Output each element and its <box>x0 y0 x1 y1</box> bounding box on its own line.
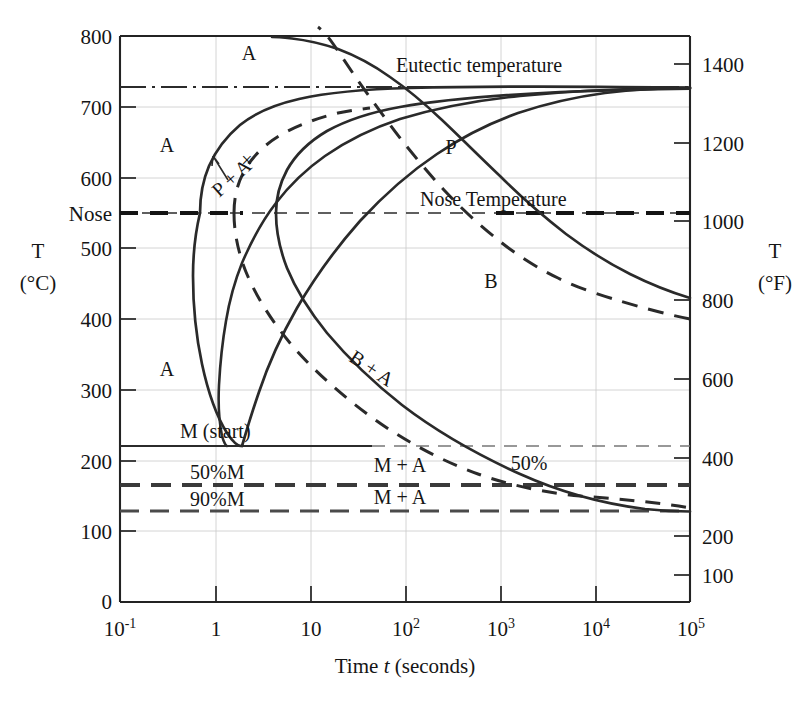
y-tick-label-left-0: 0 <box>102 590 113 614</box>
y-tick-label-left-500: 500 <box>81 237 113 261</box>
y-tick-label-left-400: 400 <box>81 308 113 332</box>
y-tick-label-left-600: 600 <box>81 167 113 191</box>
m-50-percent-label: 50%M <box>190 461 245 483</box>
region-label-austenite-lower-left: A <box>160 358 175 380</box>
region-label-austenite-upper-left: A <box>160 134 175 156</box>
y-tick-label-left-200: 200 <box>81 450 113 474</box>
y-axis-right-title-line1: T <box>769 239 782 263</box>
ttt-diagram-chart: 10-1 1 10 102 103 104 105 800 700 600 No… <box>0 0 809 710</box>
eutectic-temperature-label: Eutectic temperature <box>396 54 562 77</box>
y-tick-label-left-700: 700 <box>81 96 113 120</box>
region-label-pearlite: P <box>445 136 456 158</box>
nose-temperature-label: Nose Temperature <box>420 188 567 211</box>
y-tick-label-right-1400: 1400 <box>702 53 744 77</box>
y-tick-label-left-nose: Nose <box>69 202 112 226</box>
y-tick-label-left-800: 800 <box>81 25 113 49</box>
x-tick-label-2: 10 <box>301 617 322 641</box>
y-tick-label-right-100: 100 <box>702 564 734 588</box>
m-start-label: M (start) <box>180 420 251 443</box>
y-tick-label-right-1200: 1200 <box>702 132 744 156</box>
x-tick-label-1: 1 <box>211 617 222 641</box>
region-label-martensite-plus-austenite-lower: M + A <box>374 486 427 508</box>
region-label-austenite-top: A <box>242 42 257 64</box>
y-tick-label-right-1000: 1000 <box>702 210 744 234</box>
region-label-bainite: B <box>484 270 497 292</box>
y-tick-label-right-400: 400 <box>702 447 734 471</box>
m-90-percent-label: 90%M <box>190 488 245 510</box>
annotation-fifty-percent: 50% <box>511 452 548 474</box>
region-label-martensite-plus-austenite-upper: M + A <box>374 454 427 476</box>
y-tick-label-right-600: 600 <box>702 368 734 392</box>
y-tick-label-left-100: 100 <box>81 520 113 544</box>
y-axis-left-title-line2: (°C) <box>20 271 56 295</box>
y-tick-label-right-200: 200 <box>702 525 734 549</box>
p-cross-marker: × <box>241 149 252 171</box>
y-axis-left-title-line1: T <box>32 239 45 263</box>
y-tick-label-left-300: 300 <box>81 379 113 403</box>
y-axis-right-title-line2: (°F) <box>758 271 792 295</box>
y-tick-label-right-800: 800 <box>702 289 734 313</box>
ttt-diagram-page: 10-1 1 10 102 103 104 105 800 700 600 No… <box>0 0 809 710</box>
x-axis-title: Time t (seconds) <box>335 654 475 678</box>
